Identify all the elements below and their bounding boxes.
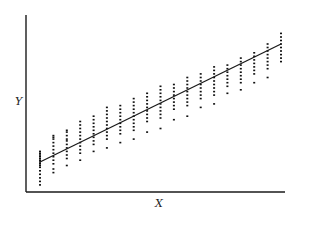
- data-point: [186, 84, 188, 86]
- data-point: [66, 158, 68, 160]
- data-point: [66, 154, 68, 156]
- data-point: [79, 138, 81, 140]
- data-point: [93, 151, 95, 153]
- data-point: [213, 80, 215, 82]
- data-point: [160, 117, 162, 119]
- data-point: [280, 54, 282, 56]
- data-point: [52, 145, 54, 147]
- data-point: [66, 144, 68, 146]
- data-point: [133, 112, 135, 114]
- data-point: [173, 91, 175, 93]
- data-point: [186, 94, 188, 96]
- data-point: [253, 63, 255, 65]
- data-point: [240, 78, 242, 80]
- data-point: [213, 70, 215, 72]
- data-point: [240, 68, 242, 70]
- data-point: [52, 149, 54, 151]
- data-point: [93, 130, 95, 132]
- data-point: [106, 107, 108, 109]
- data-point: [160, 114, 162, 116]
- data-point: [93, 133, 95, 135]
- data-point: [160, 100, 162, 102]
- data-point: [160, 89, 162, 91]
- data-point: [280, 47, 282, 49]
- data-point: [173, 101, 175, 103]
- data-point: [253, 73, 255, 75]
- data-point: [267, 47, 269, 49]
- data-point: [280, 40, 282, 42]
- data-point: [79, 131, 81, 133]
- data-point: [240, 89, 242, 91]
- data-point: [200, 91, 202, 93]
- data-point: [200, 98, 202, 100]
- data-point: [280, 61, 282, 63]
- data-point: [253, 70, 255, 72]
- data-point: [79, 159, 81, 161]
- data-point: [106, 110, 108, 112]
- data-point: [226, 75, 228, 77]
- data-point: [200, 77, 202, 79]
- data-point: [213, 91, 215, 93]
- data-point: [186, 77, 188, 79]
- data-point: [52, 163, 54, 165]
- data-point: [267, 77, 269, 79]
- data-point: [173, 98, 175, 100]
- data-point: [146, 117, 148, 119]
- data-point: [119, 133, 121, 135]
- data-point: [106, 138, 108, 140]
- data-point: [253, 59, 255, 61]
- data-point: [173, 84, 175, 86]
- data-point: [226, 82, 228, 84]
- data-point: [213, 103, 215, 105]
- data-point: [200, 94, 202, 96]
- data-point: [226, 64, 228, 66]
- data-point: [79, 149, 81, 151]
- data-point: [253, 66, 255, 68]
- data-point: [106, 117, 108, 119]
- data-point: [52, 152, 54, 154]
- data-point: [240, 71, 242, 73]
- x-axis-label: X: [154, 197, 164, 210]
- data-point: [146, 131, 148, 133]
- data-point: [93, 115, 95, 117]
- data-point: [160, 128, 162, 130]
- data-point: [79, 128, 81, 130]
- data-point: [93, 144, 95, 146]
- data-point: [133, 126, 135, 128]
- data-point: [106, 131, 108, 133]
- data-point: [39, 167, 41, 169]
- data-point: [133, 119, 135, 121]
- data-point: [93, 123, 95, 125]
- data-point: [186, 80, 188, 82]
- data-point: [119, 119, 121, 121]
- data-point: [186, 98, 188, 100]
- data-point: [39, 151, 41, 153]
- data-point: [253, 82, 255, 84]
- data-point: [200, 73, 202, 75]
- data-point: [52, 135, 54, 137]
- data-point: [253, 52, 255, 54]
- data-point: [79, 121, 81, 123]
- data-point: [39, 174, 41, 176]
- data-point: [160, 93, 162, 95]
- data-point: [173, 108, 175, 110]
- data-point: [52, 142, 54, 144]
- data-point: [66, 131, 68, 133]
- data-point: [79, 152, 81, 154]
- data-point: [186, 91, 188, 93]
- data-point: [39, 154, 41, 156]
- data-point: [267, 43, 269, 45]
- data-point: [213, 94, 215, 96]
- data-point: [226, 93, 228, 95]
- data-points: [39, 33, 282, 186]
- data-point: [52, 159, 54, 161]
- data-point: [160, 96, 162, 98]
- data-point: [146, 121, 148, 123]
- data-point: [106, 114, 108, 116]
- data-point: [66, 151, 68, 153]
- data-point: [39, 184, 41, 186]
- data-point: [133, 123, 135, 125]
- data-point: [66, 138, 68, 140]
- data-point: [186, 115, 188, 117]
- data-point: [66, 135, 68, 137]
